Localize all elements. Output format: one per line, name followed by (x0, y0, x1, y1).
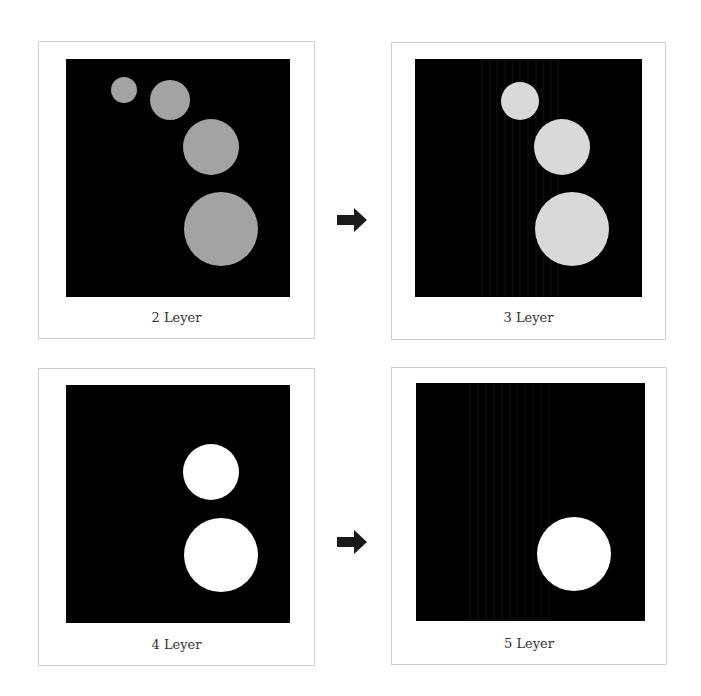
circle-shape (183, 119, 239, 175)
panel-caption: 2 Leyer (39, 310, 314, 325)
panel-caption: 4 Leyer (39, 637, 314, 652)
circles-graphic (415, 59, 642, 297)
segmentation-image-5-layer (416, 383, 645, 621)
panel-4-layer: 4 Leyer (38, 368, 315, 666)
circle-shape (184, 518, 258, 592)
panel-3-layer: 3 Leyer (391, 42, 666, 340)
arrow-right-icon (337, 530, 367, 554)
segmentation-image-4-layer (66, 385, 290, 623)
arrow-right-icon (337, 208, 367, 232)
panel-caption: 3 Leyer (392, 310, 665, 325)
circle-shape (184, 192, 258, 266)
circle-shape (111, 77, 137, 103)
segmentation-image-2-layer (66, 59, 290, 297)
segmentation-image-3-layer (415, 59, 642, 297)
panel-5-layer: 5 Leyer (391, 367, 667, 665)
circle-shape (537, 517, 611, 591)
circle-shape (534, 119, 590, 175)
panel-caption: 5 Leyer (392, 636, 666, 651)
circle-shape (183, 444, 239, 500)
circle-shape (535, 192, 609, 266)
circle-shape (150, 80, 190, 120)
circles-graphic (416, 383, 645, 621)
circles-graphic (66, 385, 290, 623)
circles-graphic (66, 59, 290, 297)
panel-2-layer: 2 Leyer (38, 41, 315, 339)
circle-shape (501, 82, 539, 120)
